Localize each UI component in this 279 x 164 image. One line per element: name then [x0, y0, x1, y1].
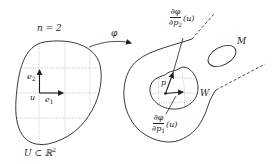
- boundary-dashed-top: [192, 14, 214, 39]
- basis-label-e2: e2: [27, 73, 36, 82]
- basis-label-e1: e1: [45, 96, 54, 105]
- map-arrow-phi: [89, 41, 131, 47]
- neighborhood-w: [148, 38, 200, 114]
- partial-derivative-p2: ∂φ ∂p2 (u): [169, 8, 195, 28]
- point-label-u: u: [30, 94, 35, 102]
- leader-partial-p1: [166, 96, 176, 114]
- tangent-vector-2: [166, 73, 174, 94]
- hole-ellipse: [205, 41, 240, 71]
- neighborhood-label-w: W: [200, 89, 209, 98]
- domain-region-u: [10, 30, 110, 150]
- manifold-region: [124, 14, 265, 142]
- map-label-phi: φ: [111, 29, 117, 38]
- tangent-vector-1: [166, 92, 184, 94]
- partial-derivative-p1: ∂φ ∂p1 (u): [152, 114, 178, 134]
- diagram-canvas: n = 2 U ⊂ ℝ2 u e1 e2 φ M W p ∂φ ∂p2 (u) …: [0, 0, 279, 164]
- point-label-p: p: [161, 79, 166, 87]
- image-grid: [148, 66, 200, 112]
- manifold-label-m: M: [237, 37, 246, 46]
- set-label-u: U ⊂ ℝ2: [24, 147, 56, 158]
- boundary-dashed-right: [216, 64, 265, 90]
- dimension-label: n = 2: [37, 24, 62, 33]
- coordinate-grid: [10, 30, 110, 150]
